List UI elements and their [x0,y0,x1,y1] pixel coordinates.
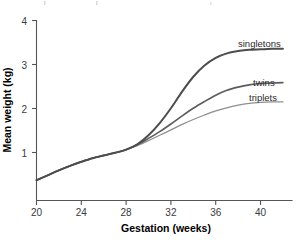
x-tick-label-32: 32 [165,207,177,218]
y-tick-label-2: 2 [21,104,27,115]
x-axis-title: Gestation (weeks) [121,222,211,234]
x-tick-label-28: 28 [121,207,133,218]
chart-background [0,0,296,240]
y-axis-title: Mean weight (kg) [1,67,13,152]
series-label-singletons: singletons [238,38,281,49]
x-tick-label-24: 24 [76,207,88,218]
y-tick-label-1: 1 [21,148,27,159]
series-label-triplets: triplets [249,92,277,103]
y-tick-label-4: 4 [21,16,27,27]
growth-chart: 4 3 2 1 20 24 28 32 36 40 Gestation (wee… [0,0,296,240]
x-tick-label-36: 36 [210,207,222,218]
series-label-twins: twins [253,77,275,88]
x-tick-label-40: 40 [255,207,267,218]
x-tick-label-20: 20 [31,207,43,218]
y-tick-label-3: 3 [21,60,27,71]
